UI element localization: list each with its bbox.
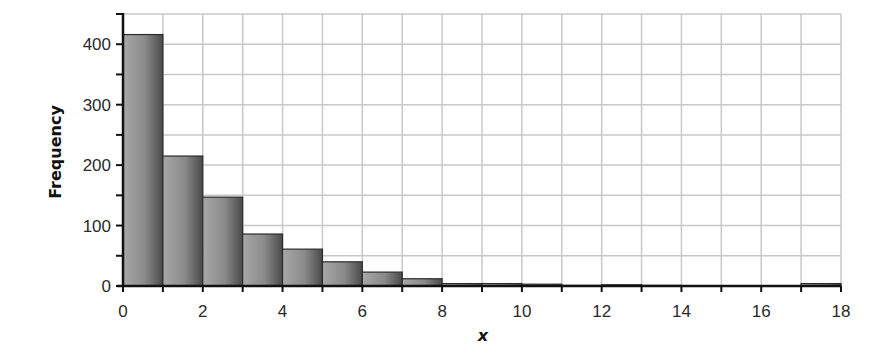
x-tick-label: 10	[512, 302, 531, 321]
histogram-bar	[203, 197, 243, 286]
x-tick-label: 16	[752, 302, 771, 321]
x-axis-title: x	[477, 326, 489, 345]
y-axis-tick-labels: 0100200300400	[83, 35, 111, 296]
histogram-chart: 024681012141618 0100200300400 Frequency …	[0, 0, 869, 361]
x-tick-label: 4	[278, 302, 287, 321]
histogram-bar	[163, 156, 203, 286]
y-tick-label: 0	[102, 277, 111, 296]
x-tick-label: 2	[198, 302, 207, 321]
histogram-bar	[123, 35, 163, 286]
x-tick-label: 12	[592, 302, 611, 321]
y-tick-label: 100	[83, 217, 111, 236]
histogram-bar	[243, 234, 283, 286]
x-tick-label: 14	[672, 302, 691, 321]
histogram-bar	[362, 272, 402, 286]
x-axis-tick-labels: 024681012141618	[118, 302, 850, 321]
x-tick-label: 6	[358, 302, 367, 321]
y-tick-label: 400	[83, 35, 111, 54]
y-axis-title: Frequency	[46, 105, 65, 199]
x-tick-label: 8	[437, 302, 446, 321]
x-tick-label: 18	[832, 302, 851, 321]
y-tick-label: 200	[83, 156, 111, 175]
histogram-bar	[322, 262, 362, 286]
y-tick-label: 300	[83, 96, 111, 115]
x-tick-label: 0	[118, 302, 127, 321]
histogram-bar	[283, 249, 323, 286]
